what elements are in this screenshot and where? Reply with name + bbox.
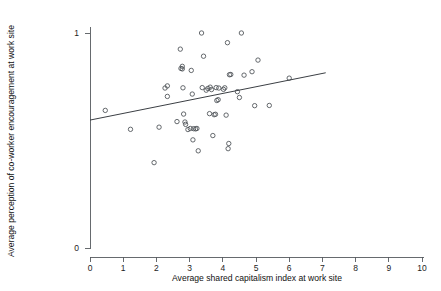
y-tick-group: 01 xyxy=(74,28,90,253)
data-point xyxy=(175,119,179,123)
x-tick-label: 5 xyxy=(254,263,259,273)
data-point-group xyxy=(103,31,291,165)
data-point xyxy=(181,112,185,116)
x-axis-label: Average shared capitalism index at work … xyxy=(172,273,342,283)
plot-canvas: 01 012345678910 Average shared capitalis… xyxy=(0,0,441,291)
data-point xyxy=(217,86,221,90)
x-tick-label: 0 xyxy=(88,263,93,273)
x-tick-label: 10 xyxy=(417,263,427,273)
data-point xyxy=(157,125,161,129)
data-point xyxy=(190,92,194,96)
data-point xyxy=(165,94,169,98)
data-point xyxy=(226,146,230,150)
data-point xyxy=(250,70,254,74)
data-point xyxy=(201,54,205,58)
data-point xyxy=(200,85,204,89)
data-point xyxy=(199,31,203,35)
data-point xyxy=(152,160,156,164)
scatter-plot-figure: 01 012345678910 Average shared capitalis… xyxy=(0,0,441,291)
x-tick-group: 012345678910 xyxy=(88,257,427,273)
x-tick-label: 1 xyxy=(121,263,126,273)
x-tick-label: 8 xyxy=(353,263,358,273)
data-point xyxy=(237,95,241,99)
y-tick-label: 0 xyxy=(74,243,79,253)
data-point xyxy=(128,127,132,131)
x-tick-label: 9 xyxy=(386,263,391,273)
data-point xyxy=(178,47,182,51)
data-point xyxy=(211,133,215,137)
y-axis-label: Average perception of co-worker encourag… xyxy=(6,25,16,257)
data-point xyxy=(191,138,195,142)
data-point xyxy=(252,103,256,107)
x-tick-label: 7 xyxy=(320,263,325,273)
x-tick-label: 4 xyxy=(220,263,225,273)
x-tick-label: 3 xyxy=(187,263,192,273)
data-point xyxy=(189,68,193,72)
data-point xyxy=(267,103,271,107)
data-point xyxy=(181,86,185,90)
data-point xyxy=(242,73,246,77)
data-point xyxy=(225,40,229,44)
data-point xyxy=(196,149,200,153)
data-point xyxy=(216,97,220,101)
x-tick-label: 6 xyxy=(287,263,292,273)
data-point xyxy=(227,141,231,145)
x-tick-label: 2 xyxy=(154,263,159,273)
data-point xyxy=(256,58,260,62)
data-point xyxy=(207,111,211,115)
data-point xyxy=(239,31,243,35)
data-point xyxy=(224,113,228,117)
data-point xyxy=(103,108,107,112)
y-tick-label: 1 xyxy=(74,28,79,38)
